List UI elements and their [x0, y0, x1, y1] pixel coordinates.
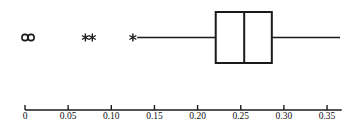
- outlier-asterisk: [89, 34, 96, 42]
- boxplot-figure: 00.050.100.150.200.250.300.35: [0, 0, 352, 135]
- outlier-asterisk: [82, 34, 89, 42]
- outlier-asterisks-group: [82, 34, 136, 42]
- x-axis-tick-label: 0.15: [146, 111, 163, 121]
- x-axis-tick-label: 0.10: [103, 111, 120, 121]
- x-axis-tick-label: 0.25: [232, 111, 249, 121]
- x-axis-tick-label: 0: [23, 111, 28, 121]
- box-plot-group: [137, 12, 340, 63]
- x-axis-tick-labels: 00.050.100.150.200.250.300.35: [23, 111, 336, 121]
- outlier-asterisk: [129, 34, 136, 42]
- x-axis-tick-label: 0.30: [276, 111, 293, 121]
- outlier-circles-group: [22, 34, 34, 40]
- x-axis-tick-label: 0.05: [60, 111, 77, 121]
- boxplot-canvas: 00.050.100.150.200.250.300.35: [0, 0, 352, 135]
- x-axis-tick-label: 0.35: [319, 111, 336, 121]
- x-axis: 00.050.100.150.200.250.300.35: [23, 105, 342, 121]
- x-axis-tick-label: 0.20: [189, 111, 206, 121]
